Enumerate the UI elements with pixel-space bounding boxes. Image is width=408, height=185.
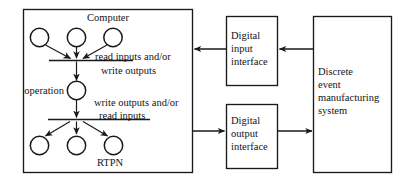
place-input-right <box>104 28 122 46</box>
note-write-outputs-line2: read inputs <box>99 110 145 121</box>
place-operation <box>67 81 85 99</box>
computer-label: Computer <box>87 12 129 23</box>
diagram-canvas: Computer RTPN operation read inputs and/… <box>0 0 408 185</box>
operation-label: operation <box>24 85 64 96</box>
note-read-inputs-line1: read inputs and/or <box>95 51 171 62</box>
des-line2: event <box>318 79 341 90</box>
rtpn-label: RTPN <box>97 157 124 168</box>
place-output-center <box>67 136 85 154</box>
place-output-left <box>30 136 48 154</box>
place-input-left <box>30 28 48 46</box>
place-output-right <box>104 136 122 154</box>
digital-output-line3: interface <box>231 141 268 152</box>
digital-input-line1: Digital <box>231 30 260 41</box>
digital-input-line2: input <box>231 43 253 54</box>
des-line3: manufacturing <box>318 92 380 103</box>
place-input-center <box>67 28 85 46</box>
digital-input-line3: interface <box>231 56 268 67</box>
block-diagram: Computer RTPN operation read inputs and/… <box>0 0 408 185</box>
des-line1: Discrete <box>318 66 353 77</box>
des-line4: system <box>318 105 347 116</box>
note-read-inputs-line2: write outputs <box>101 65 156 76</box>
note-write-outputs-line1: write outputs and/or <box>94 97 179 108</box>
digital-output-line2: output <box>231 128 258 139</box>
digital-output-line1: Digital <box>231 115 260 126</box>
